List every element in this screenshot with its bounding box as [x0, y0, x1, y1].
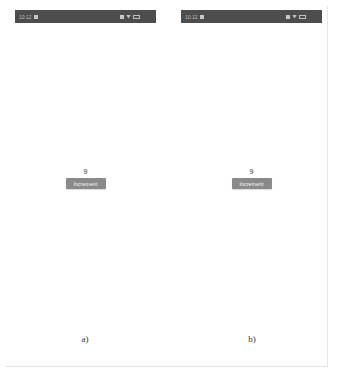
wifi-icon [292, 15, 297, 19]
status-right [120, 15, 140, 19]
battery-icon [133, 15, 140, 19]
phone-screen-a: 10:12 9 Increment [15, 10, 156, 360]
signal-icon [120, 15, 124, 19]
status-bar: 10:12 [181, 10, 322, 23]
battery-icon [299, 15, 306, 19]
status-left: 10:12 [19, 14, 38, 20]
status-left: 10:12 [185, 14, 204, 20]
counter-value: 9 [181, 168, 322, 175]
signal-icon [286, 15, 290, 19]
increment-button[interactable]: Increment [232, 178, 272, 189]
caption-b: b) [232, 334, 272, 344]
status-time: 10:12 [19, 14, 32, 20]
status-bar: 10:12 [15, 10, 156, 23]
notification-icon [200, 15, 204, 19]
counter-value: 9 [15, 168, 156, 175]
figure: 10:12 9 Increment 10:12 9 Incr [0, 0, 343, 378]
phone-screen-b: 10:12 9 Increment [181, 10, 322, 360]
increment-button[interactable]: Increment [66, 178, 106, 189]
status-right [286, 15, 306, 19]
caption-a: a) [65, 334, 105, 344]
wifi-icon [126, 15, 131, 19]
status-time: 10:12 [185, 14, 198, 20]
notification-icon [34, 15, 38, 19]
